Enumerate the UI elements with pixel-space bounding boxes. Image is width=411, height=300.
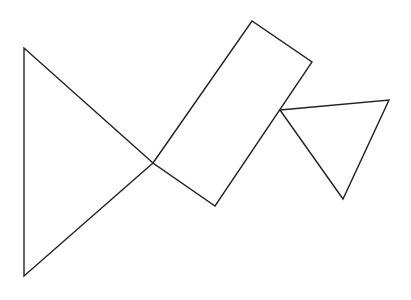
drawing-canvas (0, 0, 411, 300)
tilted-rectangle (153, 21, 312, 206)
line-drawing (0, 0, 411, 300)
small-triangle (280, 100, 389, 199)
left-triangle (24, 48, 153, 276)
